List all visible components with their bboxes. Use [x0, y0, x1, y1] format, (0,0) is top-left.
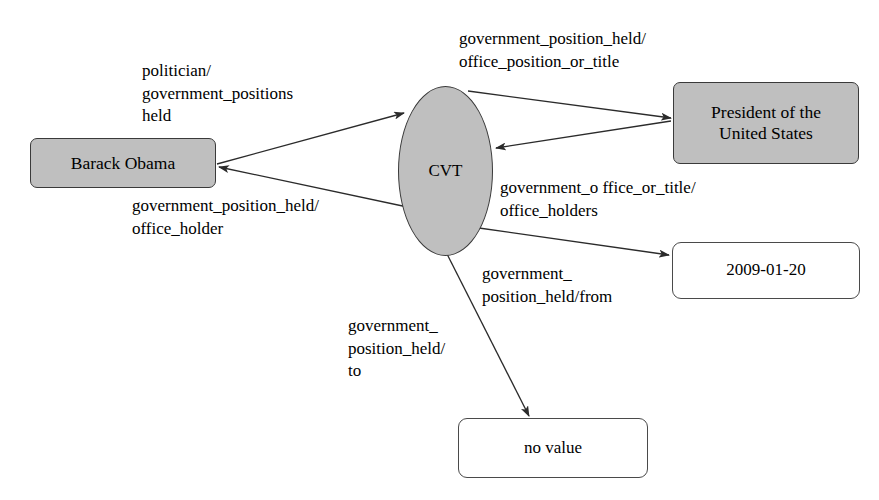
node-cvt[interactable]: CVT	[398, 86, 493, 256]
node-date-value[interactable]: 2009-01-20	[672, 242, 860, 299]
node-president-label: President of the United States	[711, 102, 821, 143]
edge-label-office-holder: government_position_held/ office_holder	[132, 195, 319, 240]
edge-cvt-to-date	[479, 228, 669, 255]
edge-label-office-position-or-title: government_position_held/ office_positio…	[459, 28, 646, 73]
node-barack-obama[interactable]: Barack Obama	[30, 138, 216, 188]
edge-label-politician-government-positions-held: politician/ government_positions held	[142, 60, 293, 128]
node-barack-obama-label: Barack Obama	[71, 153, 175, 174]
edge-label-position-held-to: government_ position_held/ to	[348, 315, 445, 383]
edge-president-to-cvt	[496, 121, 671, 148]
node-president-of-the-united-states[interactable]: President of the United States	[673, 82, 859, 164]
edge-cvt-to-president	[468, 91, 671, 118]
edge-label-office-holders: government_o ffice_or_title/ office_hold…	[500, 177, 696, 222]
node-no-value-label: no value	[524, 438, 582, 458]
edge-label-position-held-from: government_ position_held/from	[482, 263, 612, 308]
node-date-label: 2009-01-20	[726, 260, 805, 280]
node-cvt-label: CVT	[429, 161, 463, 181]
knowledge-graph-diagram: Barack Obama CVT President of the United…	[0, 0, 879, 500]
node-no-value[interactable]: no value	[458, 418, 648, 478]
